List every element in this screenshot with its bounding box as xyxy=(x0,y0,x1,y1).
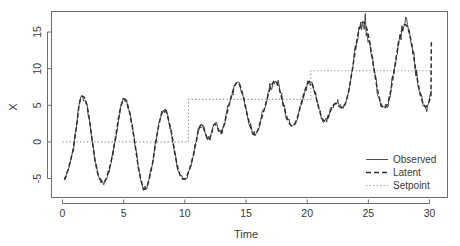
y-tick-label: 15 xyxy=(31,26,43,38)
x-tick-label: 25 xyxy=(362,207,374,219)
plot-background xyxy=(0,0,460,246)
x-tick-label: 20 xyxy=(301,207,313,219)
x-tick-label: 5 xyxy=(121,207,127,219)
legend-label-observed: Observed xyxy=(393,154,436,165)
chart-figure: -5051015 X 051015202530 Time Observed La… xyxy=(0,0,460,246)
y-tick-label: 10 xyxy=(31,63,43,75)
x-tick-label: 30 xyxy=(424,207,436,219)
y-tick-label: -5 xyxy=(31,174,43,183)
y-tick-label: 5 xyxy=(31,102,43,108)
x-tick-label: 10 xyxy=(179,207,191,219)
x-tick-label: 15 xyxy=(240,207,252,219)
legend-label-latent: Latent xyxy=(393,167,421,178)
y-axis-label: X xyxy=(7,103,19,111)
x-tick-label: 0 xyxy=(60,207,66,219)
timeseries-plot: -5051015 X 051015202530 Time Observed La… xyxy=(0,0,460,246)
legend-label-setpoint: Setpoint xyxy=(393,180,430,191)
y-tick-label: 0 xyxy=(31,139,43,145)
x-axis-label: Time xyxy=(234,228,258,240)
